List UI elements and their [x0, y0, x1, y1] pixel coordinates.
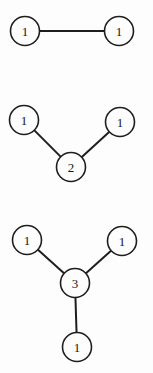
graph-edge — [81, 131, 109, 157]
graph-node[interactable]: 1 — [11, 17, 40, 46]
graph-edge — [75, 297, 76, 333]
node-label: 1 — [116, 24, 123, 39]
graph-node[interactable]: 1 — [106, 108, 135, 137]
graph-edge — [34, 130, 61, 157]
graph-node[interactable]: 1 — [105, 17, 134, 46]
graph-nodes-four-node-star: 1131 — [13, 226, 137, 362]
graph-nodes-three-node-vee: 112 — [10, 106, 135, 182]
graph-node[interactable]: 1 — [10, 106, 39, 135]
nodes-layer: 111121131 — [10, 17, 137, 362]
graph-node[interactable]: 2 — [57, 153, 86, 182]
graph-edge — [85, 250, 111, 273]
node-label: 1 — [119, 234, 126, 249]
graph-node[interactable]: 1 — [108, 227, 137, 256]
node-label: 1 — [24, 233, 31, 248]
graph-node[interactable]: 3 — [61, 269, 90, 298]
node-label: 1 — [74, 340, 81, 355]
node-label: 3 — [72, 276, 79, 291]
graph-svg-surface: 111121131 — [0, 0, 153, 373]
graph-diagram-canvas: 111121131 — [0, 0, 153, 373]
graph-edge — [37, 249, 64, 273]
graph-node[interactable]: 1 — [63, 333, 92, 362]
node-label: 1 — [21, 113, 28, 128]
node-label: 1 — [22, 24, 29, 39]
graph-node[interactable]: 1 — [13, 226, 42, 255]
node-label: 2 — [68, 160, 75, 175]
node-label: 1 — [117, 115, 124, 130]
